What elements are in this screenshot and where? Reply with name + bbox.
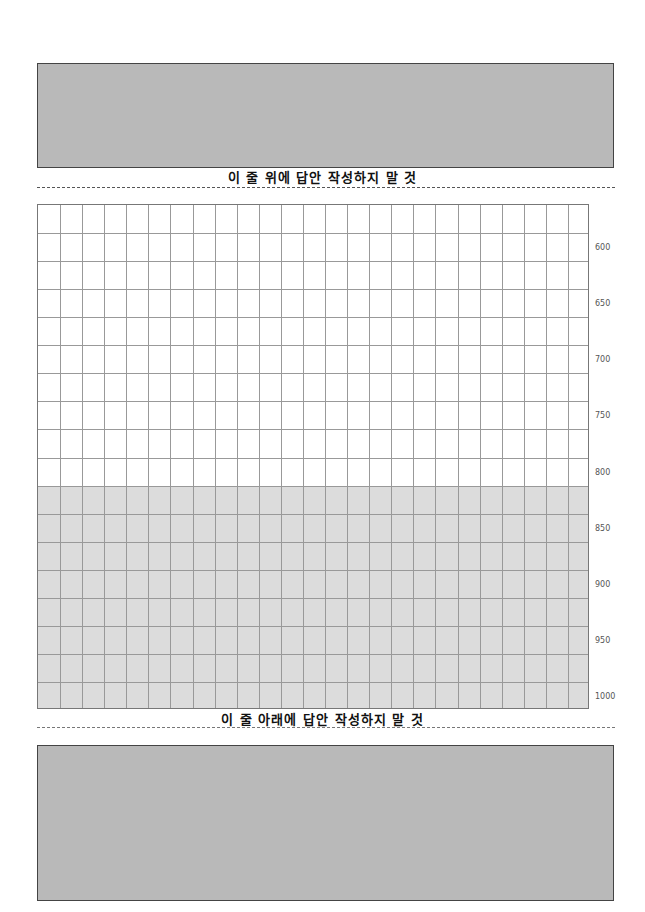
grid-row-line (38, 401, 588, 402)
grid-row-line (38, 373, 588, 374)
char-count-label: 900 (595, 580, 610, 589)
grid-column-line (435, 205, 436, 708)
char-count-label: 750 (595, 411, 610, 420)
grid-column-line (546, 205, 547, 708)
bottom-dashed-divider (37, 727, 615, 728)
grid-column-line (170, 205, 171, 708)
grid-row-line (38, 542, 588, 543)
grid-row-line (38, 654, 588, 655)
grid-column-line (193, 205, 194, 708)
grid-column-line (347, 205, 348, 708)
grid-column-line (480, 205, 481, 708)
bottom-blocked-area (37, 745, 614, 901)
grid-column-line (104, 205, 105, 708)
char-count-label: 1000 (595, 692, 615, 701)
grid-row-line (38, 429, 588, 430)
grid-column-line (413, 205, 414, 708)
grid-row-line (38, 682, 588, 683)
grid-column-line (259, 205, 260, 708)
grid-row-line (38, 570, 588, 571)
char-count-label: 600 (595, 243, 610, 252)
grid-row-line (38, 289, 588, 290)
grid-row-line (38, 626, 588, 627)
grid-row-line (38, 261, 588, 262)
char-count-label: 800 (595, 468, 610, 477)
grid-row-line (38, 598, 588, 599)
grid-column-line (502, 205, 503, 708)
grid-column-line (82, 205, 83, 708)
char-count-label: 650 (595, 299, 610, 308)
grid-column-line (60, 205, 61, 708)
grid-column-line (237, 205, 238, 708)
grid-row-line (38, 486, 588, 487)
top-blocked-area (37, 63, 614, 168)
grid-column-line (126, 205, 127, 708)
shaded-grid-area (38, 486, 588, 708)
char-count-label: 700 (595, 355, 610, 364)
grid-row-line (38, 317, 588, 318)
grid-row-line (38, 233, 588, 234)
char-count-label: 850 (595, 524, 610, 533)
answer-grid[interactable] (37, 204, 589, 709)
grid-column-line (281, 205, 282, 708)
grid-column-line (524, 205, 525, 708)
grid-column-line (458, 205, 459, 708)
top-dashed-divider (37, 187, 615, 188)
top-notice: 이 줄 위에 답안 작성하지 말 것 (0, 167, 645, 186)
grid-column-line (303, 205, 304, 708)
bottom-notice: 이 줄 아래에 답안 작성하지 말 것 (0, 709, 645, 728)
grid-column-line (148, 205, 149, 708)
grid-row-line (38, 514, 588, 515)
grid-row-line (38, 345, 588, 346)
grid-column-line (369, 205, 370, 708)
grid-column-line (391, 205, 392, 708)
grid-column-line (568, 205, 569, 708)
grid-column-line (325, 205, 326, 708)
grid-column-line (215, 205, 216, 708)
grid-row-line (38, 458, 588, 459)
char-count-label: 950 (595, 636, 610, 645)
